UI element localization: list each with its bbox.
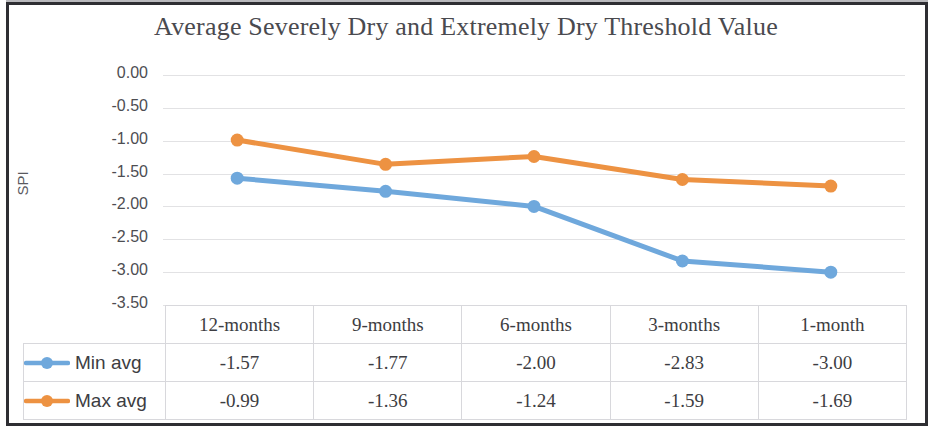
data-point bbox=[379, 185, 392, 198]
table-cell: -0.99 bbox=[166, 382, 314, 420]
legend-marker-icon bbox=[24, 355, 70, 371]
data-point bbox=[824, 266, 837, 279]
table-cell: -3.00 bbox=[758, 344, 906, 382]
legend-label: Min avg bbox=[75, 352, 142, 374]
column-header: 3-months bbox=[610, 306, 758, 344]
data-point bbox=[676, 254, 689, 267]
data-point bbox=[824, 180, 837, 193]
column-header: 12-months bbox=[166, 306, 314, 344]
table-cell: -1.57 bbox=[166, 344, 314, 382]
table-row: Max avg-0.99-1.36-1.24-1.59-1.69 bbox=[24, 382, 907, 420]
legend-marker-icon bbox=[24, 393, 70, 409]
data-point bbox=[379, 158, 392, 171]
table-cell: -1.77 bbox=[314, 344, 462, 382]
header-spacer bbox=[24, 306, 166, 344]
column-header: 9-months bbox=[314, 306, 462, 344]
table-cell: -1.24 bbox=[462, 382, 610, 420]
data-point bbox=[676, 173, 689, 186]
data-point bbox=[231, 134, 244, 147]
table-cell: -1.69 bbox=[758, 382, 906, 420]
table-cell: -1.59 bbox=[610, 382, 758, 420]
table-cell: -2.00 bbox=[462, 344, 610, 382]
plot-area: SPI 0.00-0.50-1.00-1.50-2.00-2.50-3.00-3… bbox=[0, 0, 932, 310]
legend-entry-max-avg: Max avg bbox=[24, 382, 166, 420]
legend-label: Max avg bbox=[75, 390, 147, 412]
data-point bbox=[528, 150, 541, 163]
series-line-max-avg bbox=[237, 140, 831, 186]
legend-entry-min-avg: Min avg bbox=[24, 344, 166, 382]
table-header-row: 12-months9-months6-months3-months1-month bbox=[24, 306, 907, 344]
column-header: 6-months bbox=[462, 306, 610, 344]
table-row: Min avg-1.57-1.77-2.00-2.83-3.00 bbox=[24, 344, 907, 382]
series-lines bbox=[0, 0, 932, 310]
data-table-zone: 12-months9-months6-months3-months1-month… bbox=[23, 305, 907, 419]
frame-bottom-border bbox=[6, 423, 928, 426]
data-point bbox=[231, 172, 244, 185]
table-cell: -1.36 bbox=[314, 382, 462, 420]
series-line-min-avg bbox=[237, 178, 831, 272]
data-point bbox=[528, 200, 541, 213]
table-cell: -2.83 bbox=[610, 344, 758, 382]
column-header: 1-month bbox=[758, 306, 906, 344]
chart-figure: Average Severely Dry and Extremely Dry T… bbox=[0, 0, 932, 430]
data-table: 12-months9-months6-months3-months1-month… bbox=[23, 305, 907, 420]
